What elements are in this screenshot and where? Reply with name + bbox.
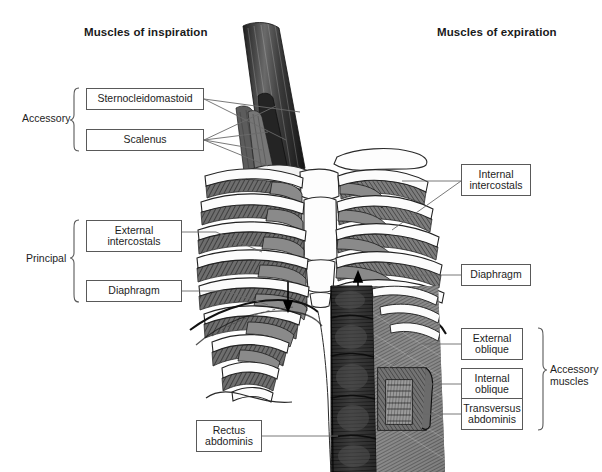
label-text-internal-intercostals: Internal intercostals bbox=[469, 169, 522, 192]
label-box-internal-oblique[interactable]: Internal oblique bbox=[461, 368, 523, 400]
group-label-accessory-inspiration: Accessory bbox=[22, 113, 72, 125]
label-box-external-oblique[interactable]: External oblique bbox=[461, 328, 523, 360]
label-text-scalenus: Scalenus bbox=[123, 134, 166, 146]
label-box-transversus-abdominis[interactable]: Transversus abdominis bbox=[461, 398, 523, 430]
label-text-transversus-abdominis: Transversus abdominis bbox=[463, 403, 520, 426]
label-box-rectus-abdominis[interactable]: Rectus abdominis bbox=[196, 420, 262, 452]
label-text-rectus-abdominis: Rectus abdominis bbox=[205, 425, 253, 448]
label-box-external-intercostals[interactable]: External intercostals bbox=[86, 220, 182, 252]
label-text-diaphragm-left: Diaphragm bbox=[108, 285, 159, 297]
label-box-internal-intercostals[interactable]: Internal intercostals bbox=[461, 164, 531, 196]
group-label-principal-inspiration: Principal bbox=[26, 253, 74, 265]
label-text-internal-oblique: Internal oblique bbox=[474, 373, 509, 396]
label-box-diaphragm-right[interactable]: Diaphragm bbox=[461, 264, 531, 286]
title-muscles-of-expiration: Muscles of expiration bbox=[437, 26, 557, 38]
group-label-accessory-muscles-expiration: Accessory muscles bbox=[550, 364, 602, 387]
label-box-sternocleidomastoid[interactable]: Sternocleidomastoid bbox=[86, 88, 204, 110]
label-box-diaphragm-left[interactable]: Diaphragm bbox=[86, 280, 182, 302]
title-muscles-of-inspiration: Muscles of inspiration bbox=[84, 26, 208, 38]
label-text-diaphragm-right: Diaphragm bbox=[470, 269, 521, 281]
label-box-scalenus[interactable]: Scalenus bbox=[86, 129, 204, 151]
label-text-sternocleidomastoid: Sternocleidomastoid bbox=[97, 93, 192, 105]
figure-canvas: Muscles of inspiration Muscles of expira… bbox=[0, 0, 602, 472]
label-text-external-intercostals: External intercostals bbox=[107, 225, 160, 248]
label-text-external-oblique: External oblique bbox=[473, 333, 512, 356]
